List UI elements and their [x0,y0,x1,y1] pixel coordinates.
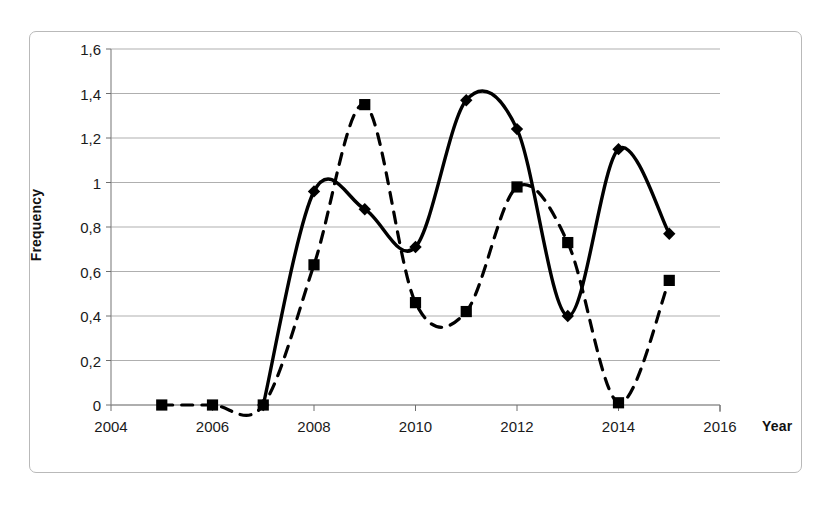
y-tick-label: 0,8 [43,219,101,236]
x-tick-label: 2012 [500,418,533,435]
y-tick-label: 1 [43,174,101,191]
y-tick-label: 1,4 [43,85,101,102]
y-tick-label: 1,2 [43,130,101,147]
y-tick-label: 0,6 [43,263,101,280]
x-axis-title: Year [762,418,792,434]
chart-frame [29,31,802,473]
y-axis-title: Frequency [28,185,44,265]
y-tick-label: 1,6 [43,41,101,58]
y-tick-label: 0 [43,397,101,414]
x-tick-label: 2010 [399,418,432,435]
x-tick-label: 2004 [94,418,127,435]
y-tick-label: 0,4 [43,308,101,325]
y-tick-label: 0,2 [43,352,101,369]
x-tick-label: 2016 [703,418,736,435]
x-tick-label: 2008 [297,418,330,435]
x-tick-label: 2006 [196,418,229,435]
x-tick-label: 2014 [602,418,635,435]
